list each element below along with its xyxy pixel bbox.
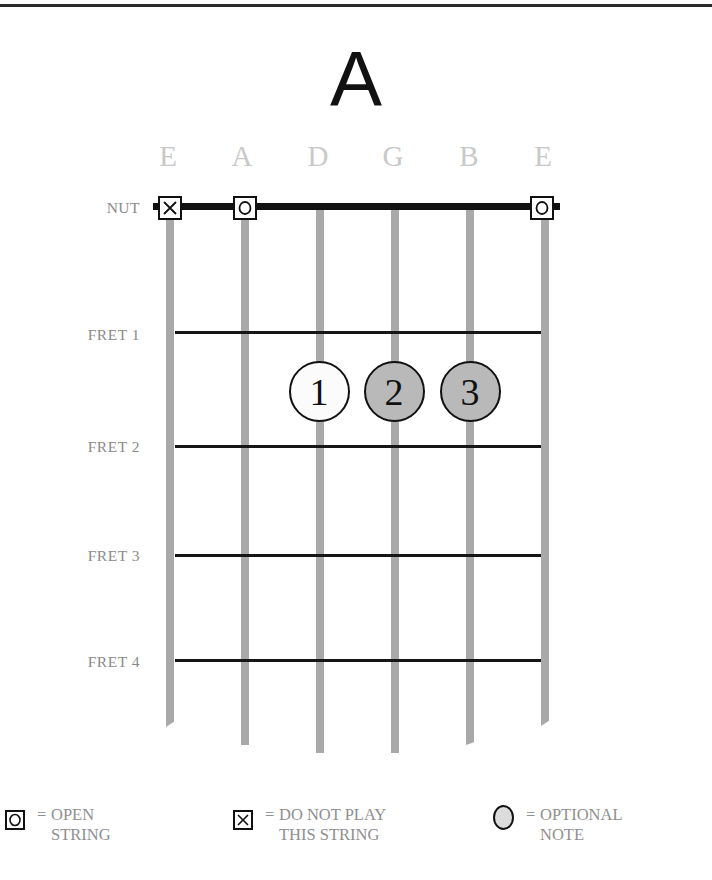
nut-label: NUT [40,199,140,217]
x-icon [162,200,178,216]
fret-line-3 [175,554,541,557]
string-a [241,210,249,745]
open-string-icon [5,810,25,830]
nut-bar [153,203,560,210]
string-low-e [166,210,174,727]
string-label-a: A [222,140,262,172]
fret-line-2 [175,445,541,448]
string-d [316,210,324,753]
string-label-high-e: E [523,140,563,172]
legend-optional-line2: NOTE [526,825,623,845]
string-label-low-e: E [148,140,188,172]
legend-open-line2: STRING [37,825,111,845]
string-label-b: B [449,140,489,172]
fret-label-1: FRET 1 [40,326,140,344]
finger-3-b-string: 3 [440,361,501,422]
fret-label-2: FRET 2 [40,438,140,456]
top-border [0,4,712,7]
string-label-d: D [298,140,338,172]
legend-open-string: =OPEN STRING [5,805,111,845]
string-g [391,210,399,753]
open-marker-high-e [530,196,554,220]
legend-mute-line2: THIS STRING [265,825,386,845]
string-label-g: G [373,140,413,172]
finger-2-g-string: 2 [364,361,425,422]
legend-open-line1: OPEN [51,805,94,824]
o-icon [534,200,550,216]
mute-marker-low-e [158,196,182,220]
fret-line-1 [175,331,541,334]
o-icon [237,200,253,216]
fret-label-3: FRET 3 [40,547,140,565]
finger-1-d-string: 1 [289,361,350,422]
chord-title: A [0,34,712,124]
legend-optional-line1: OPTIONAL [540,805,623,824]
optional-note-icon [493,805,514,830]
string-high-e [541,210,549,726]
string-b [466,210,474,745]
fret-line-4 [175,659,541,662]
legend-optional-note: =OPTIONAL NOTE [493,805,623,845]
open-marker-a [233,196,257,220]
legend-mute-line1: DO NOT PLAY [279,805,386,824]
fret-label-4: FRET 4 [40,653,140,671]
mute-string-icon [233,810,253,830]
legend-do-not-play: =DO NOT PLAY THIS STRING [233,805,386,845]
